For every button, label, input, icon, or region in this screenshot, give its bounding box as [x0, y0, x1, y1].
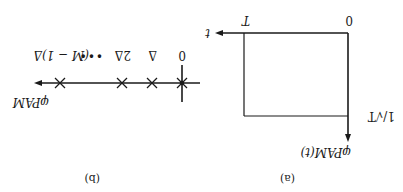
figure-canvas: 0 T t 1/√T φPAM(t) (a) 0 Δ 2Δ ••• (M − 1…	[0, 0, 403, 192]
panel-b-label-0: 0	[178, 49, 186, 61]
panel-b-label-delta: Δ	[148, 49, 157, 61]
panel-b-label-Mminus1-delta: (M − 1)Δ	[33, 49, 89, 61]
figure-drawing	[0, 0, 403, 192]
panel-b-axis-label: φPAM	[13, 96, 49, 108]
panel-a-T-label: T	[242, 14, 250, 26]
panel-a-y-axis-label: φPAM(t)	[300, 146, 351, 158]
panel-a-amplitude-label: 1/√T	[368, 110, 395, 122]
panel-b-label-2delta: 2Δ	[115, 49, 131, 61]
panel-a-pulse	[244, 33, 348, 116]
panel-a-origin-label: 0	[345, 14, 353, 26]
panel-a-caption: (a)	[280, 172, 295, 184]
panel-a-t-axis-label: t	[205, 27, 210, 39]
panel-b-caption: (b)	[84, 172, 100, 184]
panel-a-axes	[215, 30, 351, 142]
